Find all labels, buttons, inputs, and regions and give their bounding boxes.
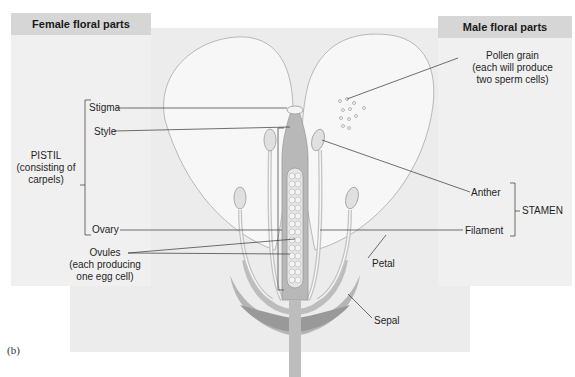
label-petal: Petal bbox=[372, 258, 395, 270]
label-ovules-line2: (each producing bbox=[60, 259, 150, 271]
label-stigma: Stigma bbox=[89, 102, 120, 114]
label-ovules: Ovules (each producing one egg cell) bbox=[60, 247, 150, 283]
stamen-bracket bbox=[510, 183, 520, 236]
label-pistil-line3: carpels) bbox=[10, 174, 82, 186]
label-style: Style bbox=[94, 126, 116, 138]
label-filament: Filament bbox=[465, 225, 503, 237]
ovary-chamber bbox=[287, 168, 303, 288]
figure-label: (b) bbox=[7, 344, 20, 356]
label-pollen-line1: Pollen grain bbox=[455, 50, 570, 62]
label-ovules-line1: Ovules bbox=[60, 247, 150, 259]
label-pistil-line1: PISTIL bbox=[10, 150, 82, 162]
label-ovary: Ovary bbox=[92, 224, 119, 236]
label-pistil: PISTIL (consisting of carpels) bbox=[10, 150, 82, 186]
label-stamen: STAMEN bbox=[522, 205, 563, 217]
stigma-shape bbox=[287, 106, 303, 114]
label-sepal: Sepal bbox=[374, 315, 400, 327]
label-anther: Anther bbox=[471, 187, 500, 199]
label-pollen-line3: two sperm cells) bbox=[455, 74, 570, 86]
label-pollen-line2: (each will produce bbox=[455, 62, 570, 74]
label-ovules-line3: one egg cell) bbox=[60, 271, 150, 283]
stem-shape bbox=[289, 300, 301, 377]
label-pollen-grain: Pollen grain (each will produce two sper… bbox=[455, 50, 570, 86]
label-pistil-line2: (consisting of bbox=[10, 162, 82, 174]
